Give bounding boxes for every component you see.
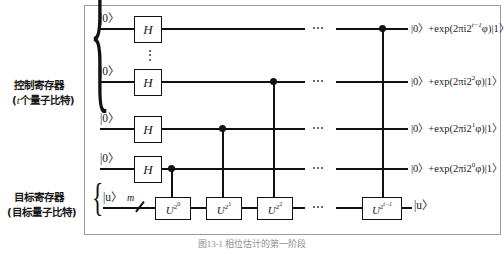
u-gate-2[interactable]: U21 — [206, 197, 242, 220]
wire-row3-a — [100, 128, 134, 130]
wire-row2-c — [336, 81, 408, 83]
target-register-name: 目标寄存器 — [14, 191, 64, 203]
wire-row2-b — [160, 81, 305, 83]
wire-row4-b — [160, 168, 305, 170]
output-ket-target: |u〉 — [414, 200, 433, 212]
output-exponent-row1: t−1 — [472, 21, 482, 29]
u-gate-3-base: U — [268, 204, 276, 216]
control-line-row3-to-u2 — [222, 128, 224, 198]
hadamard-gate-row4[interactable]: H — [134, 156, 162, 183]
hadamard-gate-row1[interactable]: H — [134, 16, 162, 43]
output-suffix-row2: φ)|1〉 — [475, 76, 502, 87]
control-line-row2-to-u3 — [273, 81, 275, 198]
control-register-sublabel: (t个量子比特) — [12, 95, 75, 107]
output-label-row3: |0〉+exp(2πi21φ)|1〉 — [411, 122, 502, 134]
wire-target-e — [336, 207, 362, 209]
output-prefix-row3: |0〉+exp(2πi2 — [411, 123, 472, 134]
wire-row1-c — [336, 28, 408, 30]
hadamard-label-row3: H — [143, 123, 152, 136]
hadamard-gate-row3[interactable]: H — [134, 116, 162, 143]
wire-row3-b — [160, 128, 305, 130]
target-register-sublabel: (目标量子比特) — [7, 207, 77, 218]
figure-caption: 图13-1 相位估计的第一阶段 — [0, 240, 504, 249]
input-ket-row3: |0〉 — [100, 113, 119, 125]
hadamard-label-row4: H — [143, 163, 152, 176]
control-line-row1-to-ulast — [382, 28, 384, 198]
target-ellipsis: ⋯ — [312, 201, 326, 213]
input-ket-row1: |0〉 — [100, 13, 119, 25]
u-gate-3-exp-exp: 2 — [279, 201, 282, 207]
output-prefix-row4: |0〉+exp(2πi2 — [411, 163, 472, 174]
target-register-brace: { — [92, 180, 103, 219]
output-suffix-row4: φ)|1〉 — [475, 163, 502, 174]
u-gate-last-exp-exp: t−1 — [383, 201, 392, 207]
output-prefix-row1: |0〉+exp(2πi2 — [411, 23, 472, 34]
control-register-label: 控制寄存器 — [14, 80, 64, 91]
wire-target-b — [189, 207, 206, 209]
u-gate-last[interactable]: U2t−1 — [362, 197, 402, 220]
u-gate-1-exp-exp: 0 — [177, 201, 180, 207]
u-gate-3[interactable]: U22 — [257, 197, 293, 220]
row2-ellipsis: ⋯ — [312, 75, 326, 87]
u-gate-1[interactable]: U20 — [155, 197, 191, 220]
output-label-row2: |0〉+exp(2πi22φ)|1〉 — [411, 75, 502, 87]
vertical-ellipsis: ⋮ — [144, 49, 156, 61]
wire-target-c — [240, 207, 257, 209]
u-gate-last-base: U — [372, 204, 380, 216]
wire-target-d — [291, 207, 305, 209]
wire-row2-a — [100, 81, 134, 83]
row3-ellipsis: ⋯ — [312, 122, 326, 134]
wire-row1-a — [100, 28, 134, 30]
control-register-name: 控制寄存器 — [14, 79, 64, 91]
figure-canvas: 控制寄存器 (t个量子比特) 目标寄存器 (目标量子比特) { { |0〉 H … — [0, 0, 504, 254]
input-ket-row2: |0〉 — [100, 66, 119, 78]
target-register-label: 目标寄存器 — [14, 192, 64, 203]
row4-ellipsis: ⋯ — [312, 162, 326, 174]
wire-target-a — [103, 207, 155, 209]
wire-row4-a — [100, 168, 134, 170]
input-ket-row4: |0〉 — [100, 153, 119, 165]
hadamard-label-row1: H — [143, 23, 152, 36]
output-suffix-row3: φ)|1〉 — [475, 123, 502, 134]
wire-row3-c — [336, 128, 408, 130]
hadamard-label-row2: H — [143, 76, 152, 89]
output-label-row4: |0〉+exp(2πi20φ)|1〉 — [411, 162, 502, 174]
output-prefix-row2: |0〉+exp(2πi2 — [411, 76, 472, 87]
u-gate-2-exp-exp: 1 — [228, 201, 231, 207]
wire-row1-b — [160, 28, 305, 30]
hadamard-gate-row2[interactable]: H — [134, 69, 162, 96]
row1-ellipsis: ⋯ — [312, 22, 326, 34]
wire-row4-c — [336, 168, 408, 170]
input-ket-target: |u〉 — [103, 192, 122, 204]
target-sub: (目标量子比特) — [7, 206, 77, 218]
u-gate-2-base: U — [217, 204, 225, 216]
control-sub-rest: 个量子比特) — [20, 94, 75, 106]
u-gate-1-base: U — [166, 204, 174, 216]
output-label-row1: |0〉+exp(2πi2t−1φ)|1〉 — [411, 22, 504, 34]
control-line-row4-to-u1 — [171, 168, 173, 198]
output-suffix-row1: φ)|1〉 — [482, 23, 504, 34]
register-width-label: m — [127, 193, 134, 203]
